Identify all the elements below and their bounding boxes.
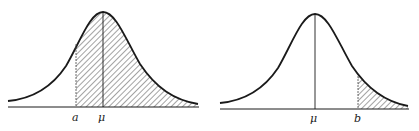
left-normal-curve-figure: a μ (8, 12, 199, 124)
label-b: b (354, 112, 361, 125)
label-mu-right: μ (310, 112, 317, 125)
normal-distribution-diagrams: a μ μ b (0, 0, 419, 131)
right-normal-curve-figure: μ b (220, 14, 409, 125)
right-bell-curve (220, 14, 408, 106)
label-mu-left: μ (98, 111, 105, 124)
label-a: a (72, 111, 79, 124)
